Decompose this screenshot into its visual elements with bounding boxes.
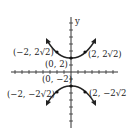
point-label-lower-right: (2, −2√2 [89,88,126,98]
vertex-label-bottom: (0, −2) [42,74,72,84]
point-label-lower-left: (−2, −2√2) [7,89,55,99]
point-label-upper-right: (2, 2√2) [88,49,122,59]
hyperbola-graph: y (−2, 2√2) (2, 2√2) (0, 2) (0, −2) (−2,… [0,0,129,132]
vertex-label-top: (0, 2) [45,59,68,69]
point-label-upper-left: (−2, 2√2) [13,47,54,57]
y-axis-label: y [74,16,80,26]
